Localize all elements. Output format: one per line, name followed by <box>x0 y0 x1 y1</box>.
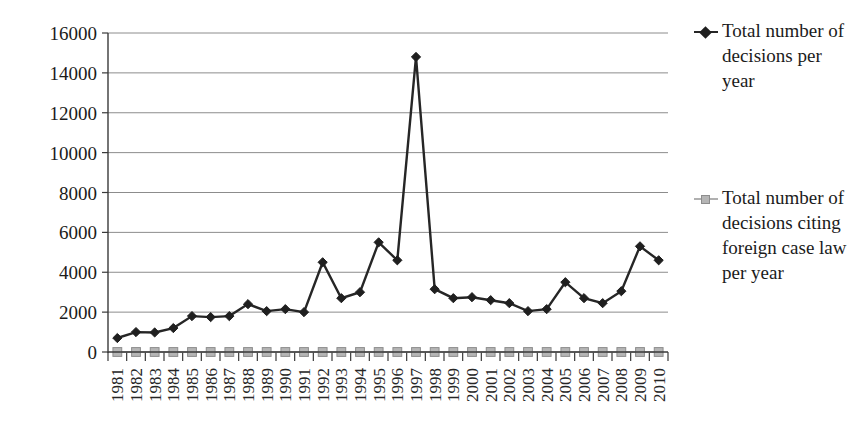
square-marker-icon <box>694 194 718 204</box>
series-total-decisions <box>113 52 664 342</box>
data-point-marker <box>449 294 458 303</box>
y-axis-tick-label: 6000 <box>59 222 97 243</box>
x-axis-tick-label: 1986 <box>202 368 221 402</box>
x-axis-tick-label: 1994 <box>351 368 370 403</box>
x-axis-tick-label: 2003 <box>519 368 538 402</box>
x-axis-tick-label: 2004 <box>538 368 557 403</box>
data-point-marker <box>486 296 495 305</box>
data-point-marker <box>206 313 215 322</box>
x-axis-tick-label: 2001 <box>482 368 501 402</box>
y-axis-tick-label: 16000 <box>50 23 98 44</box>
x-axis-tick-label: 2002 <box>500 368 519 402</box>
data-point-marker <box>411 52 420 61</box>
x-axis-tick-label: 2005 <box>556 368 575 402</box>
x-axis-tick-label: 1982 <box>127 368 146 402</box>
x-axis-tick-label: 1999 <box>444 368 463 402</box>
data-point-marker <box>131 327 140 336</box>
x-axis-tick-label: 1987 <box>220 368 239 403</box>
x-axis-tick-label: 1995 <box>370 368 389 402</box>
legend-label-total-decisions: Total number of decisions per year <box>722 18 851 93</box>
y-axis-tick-label: 8000 <box>59 183 97 204</box>
y-axis-tick-label: 14000 <box>50 63 98 84</box>
x-axis-tick-label: 2006 <box>575 368 594 402</box>
data-point-marker <box>262 307 271 316</box>
y-axis-tick-label: 0 <box>88 342 98 363</box>
diamond-marker-icon <box>694 27 718 37</box>
x-axis-tick-label: 1997 <box>407 368 426 403</box>
x-axis-tick-label: 2000 <box>463 368 482 402</box>
x-axis-tick-label: 1990 <box>276 368 295 402</box>
data-point-marker <box>299 308 308 317</box>
y-axis-tick-label: 2000 <box>59 302 97 323</box>
y-axis-tick-label: 12000 <box>50 103 98 124</box>
y-axis-tick-label: 4000 <box>59 262 97 283</box>
x-axis-tick-label: 1988 <box>239 368 258 402</box>
x-axis-tick-label: 1989 <box>258 368 277 402</box>
x-axis-tick-label: 2010 <box>650 368 669 402</box>
y-axis-tick-label: 10000 <box>50 143 98 164</box>
x-axis-tick-label: 1991 <box>295 368 314 402</box>
data-point-marker <box>430 285 439 294</box>
x-axis-tick-label: 1984 <box>164 368 183 403</box>
x-axis-tick-label: 1993 <box>332 368 351 402</box>
gridlines <box>108 33 668 312</box>
x-axis-tick-label: 2008 <box>612 368 631 402</box>
data-point-marker <box>150 328 159 337</box>
data-point-marker <box>355 288 364 297</box>
x-axis-tick-label: 1985 <box>183 368 202 402</box>
x-axis-tick-label: 1998 <box>426 368 445 402</box>
series-line <box>117 57 658 338</box>
data-point-marker <box>467 293 476 302</box>
legend-entry-foreign-citations: Total number of decisions citing foreign… <box>694 185 851 285</box>
data-point-marker <box>523 307 532 316</box>
data-point-marker <box>337 294 346 303</box>
x-axis-tick-label: 1983 <box>146 368 165 402</box>
y-axis-tick-labels: 0200040006000800010000120001400016000 <box>50 23 98 363</box>
x-axis-tick-label: 1992 <box>314 368 333 402</box>
legend-label-foreign-citations: Total number of decisions citing foreign… <box>722 185 851 285</box>
x-axis-tick-label: 2007 <box>594 368 613 403</box>
data-point-marker <box>113 333 122 342</box>
x-axis-tick-labels: 1981198219831984198519861987198819891990… <box>108 368 668 403</box>
x-axis-tick-label: 1981 <box>108 368 127 402</box>
x-axis-tick-label: 1996 <box>388 368 407 402</box>
legend-entry-total-decisions: Total number of decisions per year <box>694 18 851 93</box>
data-point-marker <box>318 258 327 267</box>
x-axis-tick-label: 2009 <box>631 368 650 402</box>
data-point-marker <box>505 299 514 308</box>
